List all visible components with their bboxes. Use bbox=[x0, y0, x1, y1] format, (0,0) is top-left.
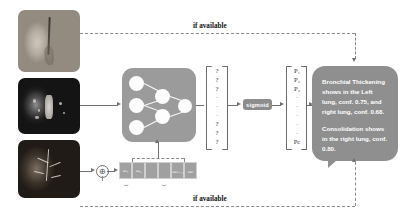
feature-cell: ω₁ bbox=[119, 162, 132, 179]
report-paragraph: Consolidation shows in the right lung, c… bbox=[322, 124, 389, 154]
report-paragraph: Bronchial Thickening shows in the Left l… bbox=[322, 77, 389, 117]
sigmoid-label: sigmoid bbox=[246, 102, 269, 108]
figure-canvas: ? ? ? · · · ? ? ? sigmoid P₁ P₂ P₃ · · ·… bbox=[0, 0, 416, 223]
probability-ellipsis: · bbox=[296, 104, 298, 110]
input-image-lung-3d-render bbox=[18, 10, 80, 72]
logit-value: ? bbox=[216, 68, 219, 75]
caption-top-if-available: if available bbox=[193, 22, 227, 30]
feature-vector-strip: ω₁ ω₂ ωₙ₋₁ ωₙ bbox=[119, 162, 197, 179]
caption-bottom-if-available: if available bbox=[193, 195, 227, 203]
top-dashed-route-drop bbox=[355, 33, 356, 59]
logit-ellipsis: · bbox=[216, 113, 218, 119]
probability-ellipsis: · bbox=[296, 122, 298, 128]
nn-output-node bbox=[178, 99, 192, 113]
probability-value: P₂ bbox=[294, 77, 300, 84]
input-image-angiography-scan bbox=[18, 140, 80, 198]
feature-cell bbox=[145, 162, 158, 179]
nn-hidden-node bbox=[155, 89, 170, 104]
sigmoid-activation-chip: sigmoid bbox=[243, 99, 272, 110]
probability-value-last: Pc bbox=[294, 139, 301, 146]
logit-value: ? bbox=[216, 130, 219, 137]
probability-ellipsis: · bbox=[296, 131, 298, 137]
logit-ellipsis: · bbox=[216, 95, 218, 101]
feature-cell bbox=[158, 162, 171, 179]
probability-ellipsis: · bbox=[296, 113, 298, 119]
logit-value: ? bbox=[216, 121, 219, 128]
top-dashed-route bbox=[80, 33, 355, 34]
fusion-operator-glyph: ⊕ bbox=[99, 168, 106, 176]
probability-value: P₃ bbox=[294, 86, 300, 93]
logit-value: ? bbox=[216, 86, 219, 93]
nn-input-node bbox=[129, 120, 144, 135]
feature-cell: ωₙ bbox=[184, 162, 197, 179]
input-image-ct-axial-slice bbox=[18, 78, 80, 134]
nn-input-node bbox=[129, 98, 144, 113]
bottom-dashed-route-rise bbox=[355, 162, 356, 206]
feature-cell: ω₂ bbox=[132, 162, 145, 179]
neural-network-block bbox=[122, 68, 196, 142]
bubble-tail-icon bbox=[328, 160, 337, 168]
logit-ellipsis: · bbox=[216, 104, 218, 110]
bottom-dashed-route bbox=[80, 206, 355, 207]
logits-column: ? ? ? · · · ? ? ? bbox=[209, 68, 225, 146]
logit-value: ? bbox=[216, 77, 219, 84]
feature-cell: ωₙ₋₁ bbox=[171, 162, 184, 179]
probability-value: P₁ bbox=[294, 68, 300, 75]
nn-hidden-node bbox=[155, 109, 170, 124]
nn-input-node bbox=[129, 76, 144, 91]
probability-ellipsis: · bbox=[296, 95, 298, 101]
probability-column: P₁ P₂ P₃ · · · · · Pc bbox=[289, 68, 305, 146]
feature-brace-right-icon: ⏟ bbox=[162, 178, 166, 186]
feature-brace-left-icon: ⏟ bbox=[124, 178, 128, 186]
report-bubble: Bronchial Thickening shows in the Left l… bbox=[312, 66, 398, 161]
logit-value: ? bbox=[216, 139, 219, 146]
